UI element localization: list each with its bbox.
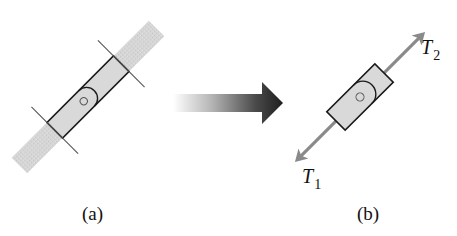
t2-label: T2: [421, 36, 440, 64]
panel-b: [286, 23, 434, 171]
t1-subscript: 1: [314, 177, 321, 192]
force-line: [286, 23, 434, 171]
t2-symbol: T: [421, 36, 432, 58]
t2-subscript: 2: [433, 48, 440, 63]
t1-symbol: T: [302, 165, 313, 187]
panel-a-label: (a): [82, 203, 103, 225]
panel-a: [0, 5, 180, 189]
t1-label: T1: [302, 165, 321, 193]
free-body-block: [327, 64, 393, 130]
transition-arrow-icon: [173, 82, 283, 124]
panel-b-label: (b): [357, 203, 379, 225]
diagram-canvas: [0, 0, 457, 236]
clamp-block-a: [47, 56, 129, 138]
